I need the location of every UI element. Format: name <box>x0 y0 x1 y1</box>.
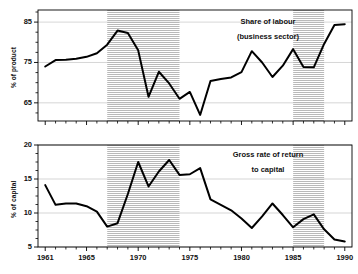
chart-annotation: Gross rate of returnto capital <box>208 151 328 173</box>
chart-subtitle: to capital <box>208 166 328 174</box>
y-axis-tick-label: 75 <box>2 57 32 66</box>
x-axis-tick-label: 1980 <box>225 253 257 262</box>
y-axis-tick-label: 65 <box>2 98 32 107</box>
y-axis-tick-label: 10 <box>2 208 32 217</box>
figure-root: % of product 657585Share of labour(busin… <box>0 0 358 274</box>
x-axis-tick-label: 1985 <box>277 253 309 262</box>
y-axis-tick-label: 85 <box>2 17 32 26</box>
y-axis-tick-label: 20 <box>2 140 32 149</box>
chart-annotation: Share of labour(business sector) <box>208 18 328 40</box>
chart-panel-share-of-labour: % of product 657585Share of labour(busin… <box>0 0 358 137</box>
x-axis-tick-label: 1970 <box>122 253 154 262</box>
chart-title: Gross rate of return <box>208 151 328 159</box>
chart-subtitle: (business sector) <box>208 33 328 41</box>
x-axis-tick-label: 1975 <box>174 253 206 262</box>
x-axis-tick-label: 1965 <box>71 253 103 262</box>
x-axis-tick-label: 1961 <box>29 253 61 262</box>
chart-title: Share of labour <box>208 18 328 26</box>
shaded-band <box>107 10 179 121</box>
chart-panel-gross-rate-of-return: % of capital 510152019611965197019751980… <box>0 137 358 274</box>
y-axis-tick-label: 15 <box>2 174 32 183</box>
y-axis-tick-label: 5 <box>2 242 32 251</box>
x-axis-tick-label: 1990 <box>329 253 358 262</box>
